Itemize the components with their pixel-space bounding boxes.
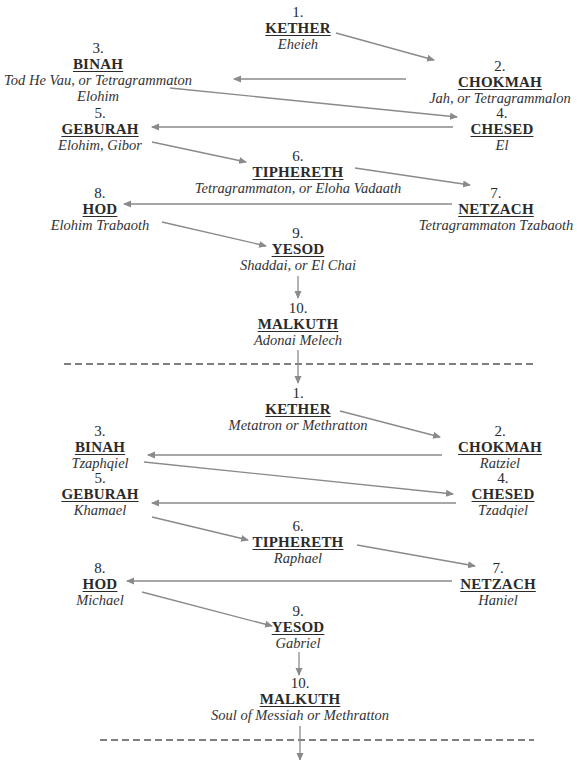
sephira-number: 3.: [71, 423, 128, 439]
sephira-hod-divine: 8. HOD Elohim Trabaoth: [51, 185, 150, 233]
sephira-number: 7.: [460, 560, 536, 576]
sephira-binah-divine: 3. BINAH Tod He Vau, or Tetragrammaton E…: [4, 40, 192, 104]
sephira-name: NETZACH: [419, 201, 574, 217]
archangel-name: Haniel: [460, 592, 536, 608]
sephira-name: KETHER: [229, 401, 368, 417]
sephira-number: 6.: [253, 518, 344, 534]
sephira-tiphereth-divine: 6. TIPHERETH Tetragrammaton, or Eloha Va…: [195, 148, 402, 196]
divine-name: Tod He Vau, or Tetragrammaton: [4, 72, 192, 88]
sephira-name: NETZACH: [460, 576, 536, 592]
sephira-malkuth-archangel: 10. MALKUTH Soul of Messiah or Methratto…: [211, 675, 389, 723]
sephira-geburah-divine: 5. GEBURAH Elohim, Gibor: [58, 105, 142, 153]
divine-name: Tetragrammaton Tzabaoth: [419, 217, 574, 233]
archangel-name: Soul of Messiah or Methratton: [211, 707, 389, 723]
sephira-number: 4.: [471, 105, 534, 121]
sephira-name: BINAH: [4, 56, 192, 72]
divine-name: El: [471, 137, 534, 153]
archangel-name: Gabriel: [272, 635, 325, 651]
sephira-kether-archangel: 1. KETHER Metatron or Methratton: [229, 385, 368, 433]
sephira-name: GEBURAH: [61, 486, 138, 502]
sephira-name: HOD: [51, 201, 150, 217]
divine-name: Elohim Trabaoth: [51, 217, 150, 233]
sephira-geburah-archangel: 5. GEBURAH Khamael: [61, 470, 138, 518]
archangel-name: Ratziel: [458, 455, 542, 471]
sephira-number: 3.: [4, 40, 192, 56]
sephira-binah-archangel: 3. BINAH Tzaphqiel: [71, 423, 128, 471]
sephira-yesod-archangel: 9. YESOD Gabriel: [272, 603, 325, 651]
sephira-name: GEBURAH: [58, 121, 142, 137]
archangel-name: Tzadqiel: [472, 502, 535, 518]
sephira-number: 1.: [265, 4, 330, 20]
sephira-netzach-divine: 7. NETZACH Tetragrammaton Tzabaoth: [419, 185, 574, 233]
sephira-number: 8.: [76, 560, 124, 576]
sephira-tiphereth-archangel: 6. TIPHERETH Raphael: [253, 518, 344, 566]
sephira-number: 10.: [254, 300, 342, 316]
sephira-number: 5.: [58, 105, 142, 121]
sephira-name: MALKUTH: [254, 316, 342, 332]
sephira-name: BINAH: [71, 439, 128, 455]
sephira-name: TIPHERETH: [195, 164, 402, 180]
archangel-name: Michael: [76, 592, 124, 608]
divine-name: Adonai Melech: [254, 332, 342, 348]
sephira-name: YESOD: [240, 241, 356, 257]
sephira-hod-archangel: 8. HOD Michael: [76, 560, 124, 608]
sephira-number: 7.: [419, 185, 574, 201]
sephira-name: KETHER: [265, 20, 330, 36]
sephira-netzach-archangel: 7. NETZACH Haniel: [460, 560, 536, 608]
sephira-chokmah-divine: 2. CHOKMAH Jah, or Tetragrammalon: [429, 58, 571, 106]
sephira-number: 2.: [458, 423, 542, 439]
sephira-number: 8.: [51, 185, 150, 201]
sephira-name: CHOKMAH: [458, 439, 542, 455]
sephira-chesed-archangel: 4. CHESED Tzadqiel: [472, 470, 535, 518]
sephira-name: HOD: [76, 576, 124, 592]
sephira-name: CHESED: [471, 121, 534, 137]
sephira-name: YESOD: [272, 619, 325, 635]
sephira-number: 5.: [61, 470, 138, 486]
sephira-name: TIPHERETH: [253, 534, 344, 550]
divine-name: Tetragrammaton, or Eloha Vadaath: [195, 180, 402, 196]
sephira-malkuth-divine: 10. MALKUTH Adonai Melech: [254, 300, 342, 348]
archangel-name: Khamael: [61, 502, 138, 518]
divine-name: Jah, or Tetragrammalon: [429, 90, 571, 106]
sephira-name: CHOKMAH: [429, 74, 571, 90]
archangel-name: Metatron or Methratton: [229, 417, 368, 433]
sephira-name: MALKUTH: [211, 691, 389, 707]
archangel-name: Raphael: [253, 550, 344, 566]
sephira-number: 2.: [429, 58, 571, 74]
sephira-number: 1.: [229, 385, 368, 401]
divine-name: Shaddai, or El Chai: [240, 257, 356, 273]
divine-name-line2: Elohim: [4, 88, 192, 104]
sephira-number: 10.: [211, 675, 389, 691]
sephira-chokmah-archangel: 2. CHOKMAH Ratziel: [458, 423, 542, 471]
sephira-number: 9.: [272, 603, 325, 619]
sephira-kether-divine: 1. KETHER Eheieh: [265, 4, 330, 52]
divine-name: Elohim, Gibor: [58, 137, 142, 153]
sephira-chesed-divine: 4. CHESED El: [471, 105, 534, 153]
sephira-number: 6.: [195, 148, 402, 164]
sephira-yesod-divine: 9. YESOD Shaddai, or El Chai: [240, 225, 356, 273]
sephira-number: 9.: [240, 225, 356, 241]
archangel-name: Tzaphqiel: [71, 455, 128, 471]
sephira-number: 4.: [472, 470, 535, 486]
divine-name: Eheieh: [265, 36, 330, 52]
sephira-name: CHESED: [472, 486, 535, 502]
